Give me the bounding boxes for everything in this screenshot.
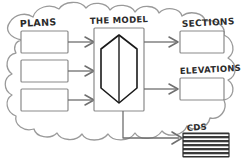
plan-box-3[interactable]	[21, 89, 68, 111]
sections-box[interactable]	[180, 31, 224, 53]
sections-label: SECTIONS	[182, 16, 235, 29]
plans-label: PLANS	[20, 16, 57, 29]
plan-box-1[interactable]	[21, 31, 68, 53]
cds-group: CDS	[183, 122, 229, 157]
the-model-group: THE MODEL	[90, 14, 149, 111]
the-model-label: THE MODEL	[90, 14, 149, 26]
diagram-canvas: PLANS THE MODEL	[0, 0, 252, 162]
cds-box[interactable]	[183, 133, 229, 157]
plan-box-2[interactable]	[21, 60, 68, 82]
elevations-box[interactable]	[180, 78, 224, 100]
cds-label: CDS	[186, 122, 207, 133]
workflow-diagram-svg: PLANS THE MODEL	[0, 0, 252, 162]
